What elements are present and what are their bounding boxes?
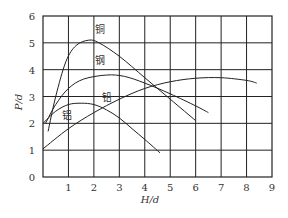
- y-tick-label: 1: [29, 145, 35, 156]
- curve-label: 铅: [102, 91, 112, 103]
- curve-label: 铜: [95, 24, 105, 35]
- y-axis-ticks: 0123456: [29, 11, 35, 183]
- y-tick-label: 0: [29, 172, 35, 183]
- x-tick-label: 6: [192, 182, 198, 193]
- x-axis-ticks: 123456789: [65, 182, 275, 193]
- y-tick-label: 3: [29, 92, 35, 103]
- x-tick-label: 7: [218, 182, 224, 193]
- curve-label: 铝: [62, 110, 72, 121]
- x-tick-label: 8: [243, 182, 249, 193]
- curve-铅: [43, 103, 160, 153]
- x-tick-label: 9: [269, 182, 275, 193]
- y-tick-label: 6: [29, 11, 35, 22]
- y-tick-label: 5: [29, 38, 35, 49]
- grid-lines: [43, 16, 272, 177]
- x-tick-label: 3: [116, 182, 122, 193]
- x-tick-label: 5: [167, 182, 173, 193]
- curve-铝: [43, 78, 257, 149]
- x-tick-label: 1: [65, 182, 71, 193]
- y-tick-label: 2: [29, 118, 35, 129]
- curve-label: 钢: [95, 54, 105, 66]
- x-tick-label: 4: [142, 182, 148, 193]
- y-tick-label: 4: [29, 65, 35, 76]
- x-tick-label: 2: [91, 182, 97, 193]
- x-axis-label: H/d: [140, 194, 160, 205]
- line-chart: 0123456 123456789 铜钢铅铝 H/d P/d: [0, 0, 288, 218]
- y-axis-label: P/d: [13, 94, 24, 112]
